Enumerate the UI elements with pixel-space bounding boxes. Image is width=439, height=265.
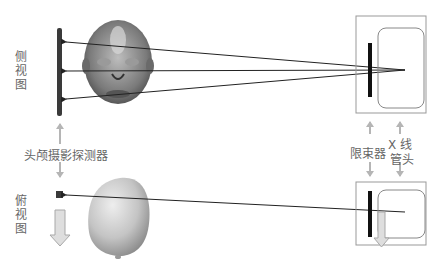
diagram-canvas [0, 0, 439, 265]
side-detector-plate [57, 28, 62, 116]
side-view-label: 侧视图 [14, 50, 28, 92]
collimator-arrow-down-icon [366, 171, 374, 177]
side-collimator [368, 43, 372, 97]
head-top-view-image [88, 178, 149, 259]
top-detector-square [56, 191, 63, 198]
top-housing-box [356, 182, 426, 245]
top-view-label: 俯视图 [14, 194, 28, 236]
anatomical-face-image [82, 20, 154, 104]
detector-arrow-down-icon [56, 172, 64, 178]
detector-motion-arrow-icon [50, 210, 70, 246]
side-housing-box [356, 16, 426, 113]
detector-arrow-up-icon [56, 123, 64, 129]
collimator-arrow-up-icon [366, 121, 374, 127]
collimator-label: 限束器 [350, 144, 386, 161]
top-collimator [368, 191, 372, 237]
tube-arrow-up-icon [396, 121, 404, 127]
xray-tube-label-line2: 管头 [390, 150, 414, 167]
detector-label: 头颅摄影探测器 [24, 146, 108, 163]
tube-arrow-down-icon [396, 171, 404, 177]
tube-motion-arrow-icon [374, 212, 389, 247]
